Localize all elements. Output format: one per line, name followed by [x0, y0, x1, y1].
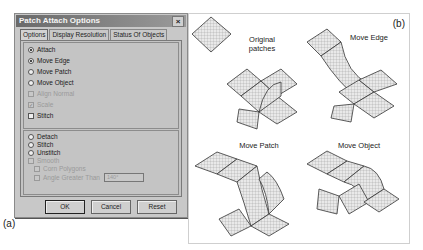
checkbox-icon — [28, 158, 34, 164]
unstitch-label: Unstitch — [37, 149, 60, 156]
cancel-button[interactable]: Cancel — [91, 200, 131, 214]
corn-polygons-label: Corn Polygons — [43, 165, 86, 172]
move-object-label: Move Object — [37, 79, 74, 86]
tab-status-of-objects[interactable]: Status Of Objects — [110, 29, 167, 40]
ok-button[interactable]: OK — [45, 200, 85, 214]
scale-label: Scale — [37, 101, 53, 108]
radio-icon — [28, 142, 34, 148]
tab-options[interactable]: Options — [20, 29, 48, 40]
smooth-label: Smooth — [37, 157, 59, 164]
move-patch-radio[interactable]: Move Patch — [28, 67, 71, 76]
move-edge-label: Move Edge — [37, 57, 70, 64]
patch-attach-options-dialog: Patch Attach Options × Options Display R… — [14, 13, 188, 218]
radio-selected-icon — [28, 47, 34, 53]
close-icon: × — [176, 17, 181, 26]
radio-icon — [28, 80, 34, 86]
patch-diagram-graphic — [189, 14, 409, 243]
attach-group: Attach Move Edge Move Patch Move Object … — [23, 42, 179, 129]
checkbox-icon — [28, 113, 34, 119]
checkbox-icon — [34, 175, 40, 181]
move-object-radio[interactable]: Move Object — [28, 78, 74, 87]
title-bar[interactable]: Patch Attach Options × — [16, 15, 186, 27]
stitch-radio-label: Stitch — [37, 141, 53, 148]
attach-label: Attach — [37, 46, 55, 53]
align-normal-checkbox[interactable]: Align Normal — [28, 89, 74, 98]
dialog-title: Patch Attach Options — [19, 15, 100, 27]
angle-greater-than-checkbox[interactable]: Angle Greater Than140° — [34, 173, 144, 182]
close-button[interactable]: × — [172, 16, 184, 27]
checkbox-icon — [28, 91, 34, 97]
radio-icon — [28, 134, 34, 140]
reset-button[interactable]: Reset — [137, 200, 177, 214]
figure-label-a: (a) — [3, 218, 15, 229]
options-panel: Attach Move Edge Move Patch Move Object … — [20, 40, 182, 197]
detach-label: Detach — [37, 133, 58, 140]
align-normal-label: Align Normal — [37, 90, 74, 97]
checkbox-icon — [34, 166, 40, 172]
scale-checkbox[interactable]: ✓Scale — [28, 100, 53, 109]
tab-bar: Options Display Resolution Status Of Obj… — [20, 29, 168, 40]
radio-icon — [28, 69, 34, 75]
checkbox-checked-icon: ✓ — [28, 102, 34, 108]
tab-display-resolution[interactable]: Display Resolution — [49, 29, 109, 40]
corn-polygons-checkbox[interactable]: Corn Polygons — [34, 164, 86, 173]
angle-field[interactable]: 140° — [104, 173, 144, 182]
stitch-label: Stitch — [37, 112, 53, 119]
radio-selected-icon — [28, 58, 34, 64]
attach-radio[interactable]: Attach — [28, 45, 55, 54]
stitch-checkbox[interactable]: Stitch — [28, 111, 53, 120]
move-patch-label: Move Patch — [37, 68, 71, 75]
detach-group: Detach Stitch Unstitch Smooth Corn Polyg… — [23, 130, 179, 195]
patch-illustrations-panel: (b) Original patches Move Edge Move Patc… — [188, 13, 410, 244]
angle-greater-than-label: Angle Greater Than — [43, 174, 100, 181]
radio-icon — [28, 150, 34, 156]
move-edge-radio[interactable]: Move Edge — [28, 56, 70, 65]
